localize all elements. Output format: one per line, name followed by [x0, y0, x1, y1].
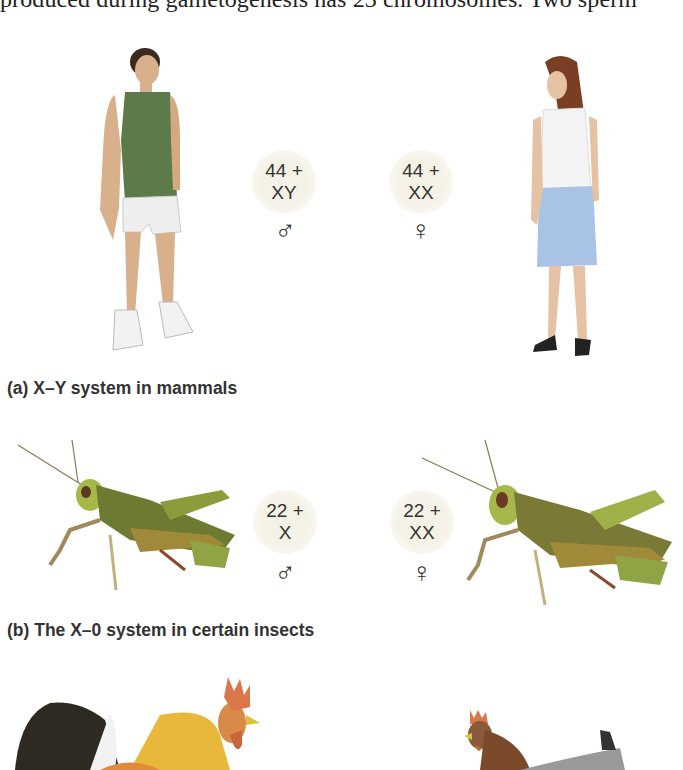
male-grasshopper-illustration [10, 440, 240, 600]
autosome-count: 22 + [266, 500, 304, 522]
rooster-illustration [10, 675, 260, 770]
sex-chromosomes: XX [408, 182, 433, 204]
man-illustration [85, 40, 200, 360]
sex-chromosomes: XY [271, 182, 296, 204]
male-chromosome-badge-b: 22 + X [253, 490, 317, 554]
sex-chromosomes: X [279, 522, 292, 544]
female-chromosome-badge-a: 44 + XX [389, 150, 453, 214]
body-text-line: produced during gametogenesis has 23 chr… [0, 0, 683, 13]
male-chromosome-badge-a: 44 + XY [252, 150, 316, 214]
hen-illustration [460, 710, 630, 770]
female-symbol-icon: ♀ [401, 216, 441, 246]
male-symbol-icon: ♂ [265, 216, 305, 246]
autosome-count: 44 + [265, 160, 303, 182]
woman-illustration [515, 50, 615, 360]
male-symbol-icon: ♂ [265, 558, 305, 588]
autosome-count: 44 + [402, 160, 440, 182]
female-grasshopper-illustration [410, 430, 683, 610]
caption-a: (a) X–Y system in mammals [7, 378, 237, 399]
caption-b: (b) The X–0 system in certain insects [7, 620, 314, 641]
